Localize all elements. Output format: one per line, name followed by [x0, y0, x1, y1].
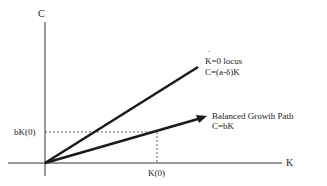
y-tick-bk0: bK(0) [14, 127, 36, 137]
x-tick-k0: K(0) [148, 168, 165, 178]
kdot-zero-locus-line [45, 67, 198, 163]
arrowhead-icon [196, 115, 207, 123]
kdot-locus-equation: C=(a-δ)K [205, 67, 240, 77]
growth-diagram: C K bK(0) K(0) K=0 locus ˙ C=(a-δ)K Bala… [0, 0, 327, 186]
kdot-dot-mark: ˙ [208, 49, 211, 59]
bgp-equation: C=bK [212, 121, 235, 131]
kdot-locus-label: K=0 locus [205, 56, 243, 66]
y-axis-label: C [38, 8, 45, 19]
x-axis-label: K [286, 157, 294, 168]
balanced-growth-path-line [45, 119, 198, 163]
bgp-label: Balanced Growth Path [212, 111, 294, 121]
